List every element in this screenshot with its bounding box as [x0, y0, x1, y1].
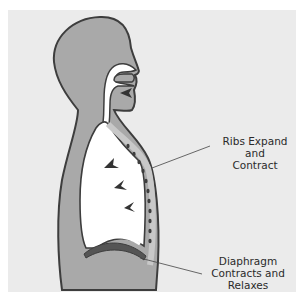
ribs-label-line2: Contract [212, 159, 298, 171]
diaphragm-label-line3: Relaxes [200, 279, 296, 291]
diaphragm-label-line1: Diaphragm [200, 255, 296, 267]
ribs-label-line1: Ribs Expand and [212, 135, 298, 159]
ribs-leader-line [152, 146, 210, 168]
diaphragm-label-line2: Contracts and [200, 267, 296, 279]
diaphragm-label: Diaphragm Contracts and Relaxes [200, 255, 296, 291]
ribs-label: Ribs Expand and Contract [212, 135, 298, 171]
tongue [114, 74, 134, 82]
